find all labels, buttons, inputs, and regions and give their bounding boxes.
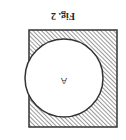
region-label-a: A [61,76,67,86]
figure-caption: Fig. 2 [0,11,126,22]
figure-page: A Fig. 2 [0,0,126,140]
